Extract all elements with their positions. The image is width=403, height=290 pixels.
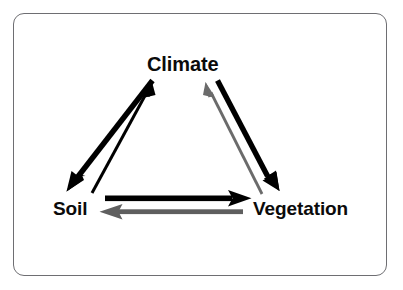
edge-soil-to-vegetation xyxy=(105,190,252,207)
edge-soil-to-climate xyxy=(92,82,156,193)
node-label-climate: Climate xyxy=(147,54,219,74)
diagram-root: Climate Soil Vegetation xyxy=(0,0,403,290)
edge-climate-to-soil xyxy=(67,81,153,192)
node-label-soil: Soil xyxy=(53,199,87,218)
edge-vegetation-to-soil xyxy=(100,204,244,219)
diagram-arrows-canvas xyxy=(0,0,403,290)
node-label-vegetation: Vegetation xyxy=(253,199,348,218)
edge-vegetation-to-climate xyxy=(203,82,262,194)
edge-climate-to-vegetation xyxy=(218,81,280,192)
